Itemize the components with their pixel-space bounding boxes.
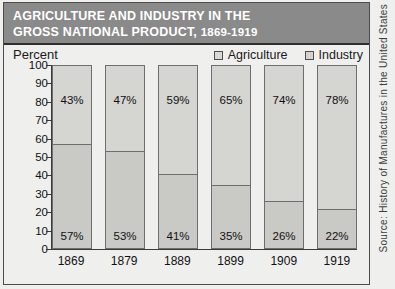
bar-segment-industry[interactable]: 43%: [52, 65, 92, 144]
bar-segment-agriculture[interactable]: 57%: [52, 144, 92, 249]
bar-segment-industry[interactable]: 59%: [158, 65, 198, 174]
bar-segment-industry[interactable]: 78%: [317, 65, 357, 209]
page-title-line-1: AGRICULTURE AND INDUSTRY IN THE: [13, 8, 369, 24]
bar-value-label-industry: 65%: [219, 94, 242, 106]
x-axis-tick-label: 1909: [264, 254, 304, 274]
legend-item-agriculture[interactable]: Agriculture: [214, 48, 288, 62]
source-credit-text: Source: History of Manufactures in the U…: [378, 4, 389, 253]
x-axis-tick-label: 1879: [104, 254, 144, 274]
bar-segment-agriculture[interactable]: 53%: [105, 151, 145, 249]
bar-value-label-agriculture: 35%: [219, 230, 242, 242]
y-axis-tick-mark: [46, 249, 51, 250]
page-title-years: 1869-1919: [201, 26, 258, 38]
y-axis-tick-mark: [46, 139, 51, 140]
bar-segment-agriculture[interactable]: 41%: [158, 174, 198, 249]
bar-segment-agriculture[interactable]: 35%: [211, 185, 251, 249]
chart-title-banner: AGRICULTURE AND INDUSTRY IN THE GROSS NA…: [4, 3, 369, 45]
y-axis-tick-mark: [46, 212, 51, 213]
plot-area: 0102030405060708090100 43%57%47%53%59%41…: [4, 65, 369, 284]
bar-segment-industry[interactable]: 74%: [264, 65, 304, 201]
bar-segment-agriculture[interactable]: 26%: [264, 201, 304, 249]
page-title-line-2-text: GROSS NATIONAL PRODUCT,: [13, 25, 197, 39]
table-row[interactable]: 47%53%: [105, 65, 145, 249]
chart-figure: AGRICULTURE AND INDUSTRY IN THE GROSS NA…: [0, 0, 395, 289]
industry-swatch-icon: [305, 51, 314, 60]
table-row[interactable]: 74%26%: [264, 65, 304, 249]
bar-value-label-industry: 78%: [325, 94, 348, 106]
y-axis-tick-mark: [46, 65, 51, 66]
x-axis-tick-label: 1889: [157, 254, 197, 274]
axis-area: 43%57%47%53%59%41%65%35%74%26%78%22%: [51, 65, 357, 249]
bar-value-label-industry: 43%: [60, 94, 83, 106]
legend-item-industry[interactable]: Industry: [305, 48, 363, 62]
y-axis-tick-mark: [46, 231, 51, 232]
bar-value-label-agriculture: 26%: [272, 230, 295, 242]
chart-frame: AGRICULTURE AND INDUSTRY IN THE GROSS NA…: [3, 2, 370, 285]
chart-subheader: Percent Agriculture Industry: [4, 47, 369, 67]
table-row[interactable]: 43%57%: [52, 65, 92, 249]
bar-segment-industry[interactable]: 47%: [105, 65, 145, 151]
x-axis-tick-label: 1869: [51, 254, 91, 274]
y-axis-tick-mark: [46, 157, 51, 158]
bar-series-group: 43%57%47%53%59%41%65%35%74%26%78%22%: [52, 65, 357, 249]
bar-value-label-industry: 47%: [113, 94, 136, 106]
x-axis-labels: 186918791889189919091919: [51, 254, 357, 274]
x-axis-tick-label: 1899: [211, 254, 251, 274]
bar-value-label-agriculture: 22%: [325, 230, 348, 242]
table-row[interactable]: 65%35%: [211, 65, 251, 249]
legend-label-industry: Industry: [319, 48, 363, 62]
y-axis-tick-mark: [46, 120, 51, 121]
legend-label-agriculture: Agriculture: [228, 48, 288, 62]
table-row[interactable]: 78%22%: [317, 65, 357, 249]
bar-value-label-agriculture: 41%: [166, 230, 189, 242]
bar-value-label-agriculture: 53%: [113, 230, 136, 242]
y-axis-tick-mark: [46, 83, 51, 84]
y-axis-tick-mark: [46, 194, 51, 195]
bar-segment-agriculture[interactable]: 22%: [317, 209, 357, 249]
y-axis-tick-mark: [46, 175, 51, 176]
page-title-line-2: GROSS NATIONAL PRODUCT, 1869-1919: [13, 24, 369, 40]
x-axis-tick-label: 1919: [317, 254, 357, 274]
table-row[interactable]: 59%41%: [158, 65, 198, 249]
bar-value-label-industry: 74%: [272, 94, 295, 106]
y-axis-tick-mark: [46, 102, 51, 103]
bar-value-label-industry: 59%: [166, 94, 189, 106]
bar-value-label-agriculture: 57%: [60, 230, 83, 242]
source-credit: Source: History of Manufactures in the U…: [372, 0, 394, 289]
agriculture-swatch-icon: [214, 51, 223, 60]
chart-legend: Agriculture Industry: [214, 48, 363, 62]
x-axis-line: [51, 249, 357, 250]
y-axis-labels: 0102030405060708090100: [4, 65, 48, 249]
bar-segment-industry[interactable]: 65%: [211, 65, 251, 185]
